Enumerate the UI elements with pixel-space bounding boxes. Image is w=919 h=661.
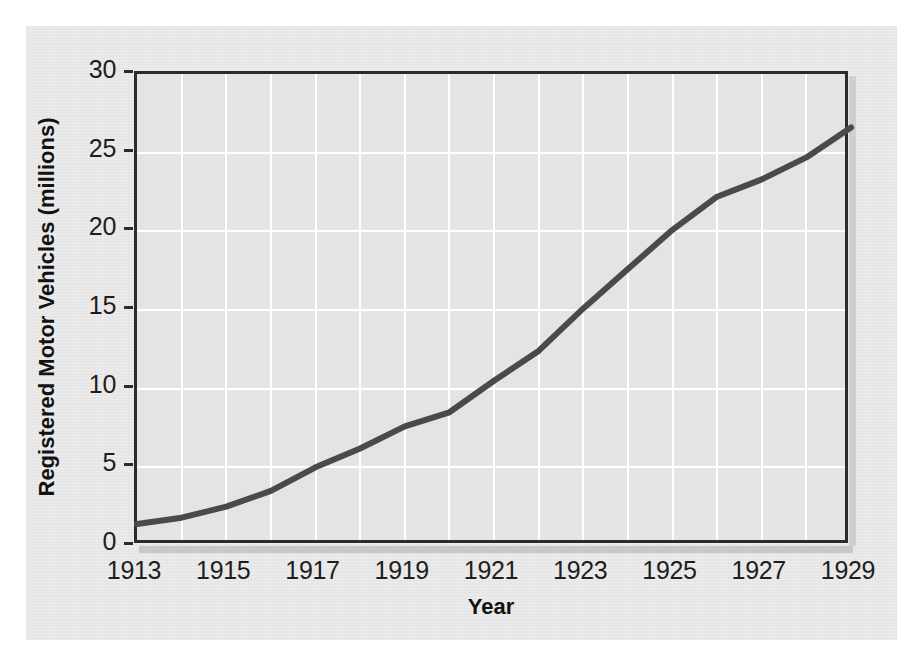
y-tick-mark (124, 463, 133, 466)
x-tick-label: 1923 (535, 556, 625, 585)
y-tick-mark (124, 149, 133, 152)
y-axis-title: Registered Motor Vehicles (millions) (34, 71, 60, 543)
plot-shadow-bottom (139, 546, 853, 553)
y-tick-mark (124, 385, 133, 388)
line-series-svg (137, 74, 851, 546)
line-series-registered-motor-vehicles (137, 128, 851, 525)
x-axis-title: Year (134, 594, 848, 620)
y-tick-mark (124, 227, 133, 230)
plot-area (134, 71, 848, 543)
x-tick-label: 1917 (268, 556, 358, 585)
x-tick-label: 1925 (625, 556, 715, 585)
y-tick-mark (124, 70, 133, 73)
x-tick-label: 1927 (714, 556, 804, 585)
x-tick-label: 1929 (803, 556, 893, 585)
x-tick-label: 1921 (446, 556, 536, 585)
x-tick-label: 1915 (178, 556, 268, 585)
x-tick-label: 1919 (357, 556, 447, 585)
y-tick-mark (124, 306, 133, 309)
x-tick-label: 1913 (89, 556, 179, 585)
y-tick-mark (124, 542, 133, 545)
chart-figure-page: 051015202530 191319151917191919211923192… (0, 0, 919, 661)
